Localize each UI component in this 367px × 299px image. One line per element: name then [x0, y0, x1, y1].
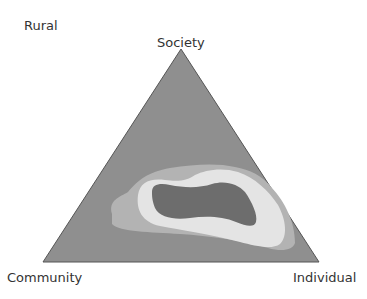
ternary-diagram [0, 0, 367, 299]
